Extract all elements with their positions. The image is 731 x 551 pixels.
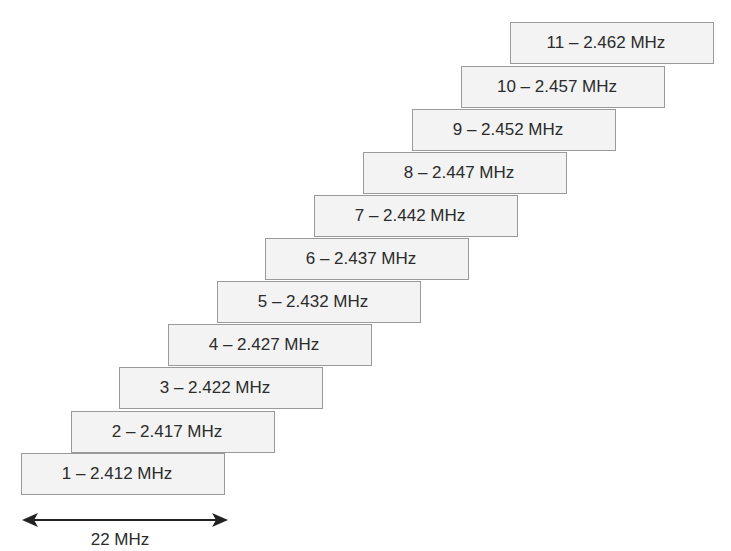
channel-box-11: 11 – 2.462 MHz bbox=[510, 22, 714, 64]
channel-label: 9 – 2.452 MHz bbox=[453, 120, 576, 140]
channel-label: 5 – 2.432 MHz bbox=[258, 292, 381, 312]
channel-box-2: 2 – 2.417 MHz bbox=[71, 411, 275, 453]
double-arrow-icon bbox=[20, 510, 230, 530]
channel-box-9: 9 – 2.452 MHz bbox=[412, 109, 616, 151]
channel-box-10: 10 – 2.457 MHz bbox=[461, 66, 665, 108]
channel-label: 7 – 2.442 MHz bbox=[355, 206, 478, 226]
channel-box-8: 8 – 2.447 MHz bbox=[363, 152, 567, 194]
channel-label: 2 – 2.417 MHz bbox=[112, 422, 235, 442]
channel-label: 10 – 2.457 MHz bbox=[497, 77, 629, 97]
channel-label: 3 – 2.422 MHz bbox=[160, 378, 283, 398]
channel-label: 4 – 2.427 MHz bbox=[209, 335, 332, 355]
channel-box-3: 3 – 2.422 MHz bbox=[119, 367, 323, 409]
channel-label: 11 – 2.462 MHz bbox=[547, 33, 678, 53]
channel-label: 1 – 2.412 MHz bbox=[62, 464, 185, 484]
channel-box-7: 7 – 2.442 MHz bbox=[314, 195, 518, 237]
channel-box-4: 4 – 2.427 MHz bbox=[168, 324, 372, 366]
channel-box-5: 5 – 2.432 MHz bbox=[217, 281, 421, 323]
channel-label: 8 – 2.447 MHz bbox=[404, 163, 527, 183]
channel-box-1: 1 – 2.412 MHz bbox=[21, 453, 225, 495]
channel-box-6: 6 – 2.437 MHz bbox=[265, 238, 469, 280]
channel-label: 6 – 2.437 MHz bbox=[306, 249, 429, 269]
channel-diagram: 1 – 2.412 MHz 2 – 2.417 MHz 3 – 2.422 MH… bbox=[0, 0, 731, 551]
channel-width-label: 22 MHz bbox=[70, 530, 170, 550]
